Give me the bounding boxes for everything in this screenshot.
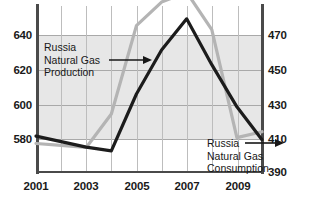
- production-annotation-line-3: Production: [44, 66, 100, 79]
- y-axis-left-tick-580: 580: [0, 133, 32, 145]
- axis-left-spine: [36, 4, 39, 174]
- x-axis-tick-2003: 2003: [63, 180, 109, 192]
- x-axis-tick-2009: 2009: [215, 180, 261, 192]
- production-annotation-line-1: Russia: [44, 41, 100, 54]
- gridline-vertical-2002: [61, 6, 62, 171]
- consumption-annotation-text-3: Consumption: [207, 162, 269, 174]
- y-axis-left-tick-620: 620: [0, 64, 32, 76]
- gridline-horizontal-640: [36, 35, 263, 36]
- x-axis-tick-2005: 2005: [114, 180, 160, 192]
- consumption-annotation-line-1: Russia: [207, 137, 269, 150]
- gridline-vertical-2004: [111, 6, 112, 171]
- consumption-annotation-line-3: Consumption: [207, 162, 269, 175]
- y-axis-right-tick-450: 450: [268, 64, 302, 76]
- y-axis-right-tick-470: 470: [268, 29, 302, 41]
- chart-root: 640 620 600 580 470 450 430 410 390 2001…: [0, 0, 322, 207]
- x-axis-tick-2007: 2007: [164, 180, 210, 192]
- gridline-vertical-2007: [187, 6, 188, 171]
- gridline-vertical-2005: [137, 6, 138, 171]
- production-annotation: Russia Natural Gas Production: [44, 41, 100, 79]
- gridline-vertical-2006: [162, 6, 163, 171]
- consumption-annotation: Russia Natural Gas Consumption: [207, 137, 269, 175]
- production-annotation-text-2: Natural Gas: [44, 54, 100, 66]
- y-axis-left-tick-640: 640: [0, 29, 32, 41]
- production-annotation-text-3: Production: [44, 66, 94, 78]
- gridline-vertical-2003: [86, 6, 87, 171]
- consumption-annotation-text-1: Russia: [207, 137, 239, 149]
- y-axis-left-tick-600: 600: [0, 99, 32, 111]
- production-annotation-text-1: Russia: [44, 41, 76, 53]
- production-annotation-line-2: Natural Gas: [44, 54, 100, 67]
- gridline-horizontal-600: [36, 105, 263, 106]
- x-axis-tick-2001: 2001: [13, 180, 59, 192]
- y-axis-right-tick-430: 430: [268, 99, 302, 111]
- consumption-annotation-text-2: Natural Gas: [207, 150, 263, 162]
- arrow-right-icon: [245, 137, 285, 148]
- consumption-annotation-line-2: Natural Gas: [207, 150, 269, 163]
- y-axis-right-tick-390: 390: [268, 166, 302, 178]
- arrow-right-icon: [109, 54, 153, 65]
